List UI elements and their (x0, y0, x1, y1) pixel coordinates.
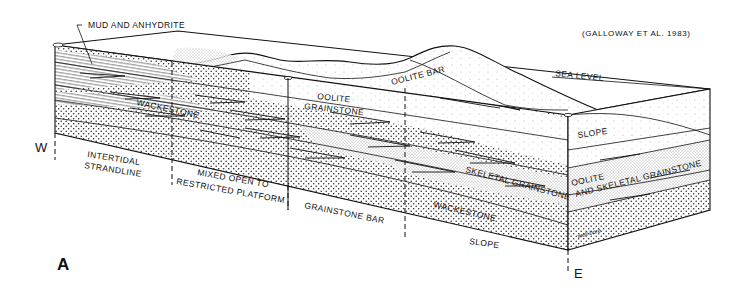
bore-cap-w (53, 43, 63, 47)
direction-east: E (574, 266, 583, 281)
label-mud-anhydrite: MUD AND ANHYDRITE (88, 20, 185, 30)
citation: (GALLOWAY ET AL. 1983) (582, 29, 691, 38)
direction-west: W (35, 140, 48, 155)
facies-slope: SLOPE (469, 236, 500, 250)
label-sea-level: SEA LEVEL (555, 68, 605, 83)
panel-label: A (57, 255, 69, 274)
block-diagram: (GALLOWAY ET AL. 1983) MUD AND ANHYDRITE… (0, 0, 740, 300)
